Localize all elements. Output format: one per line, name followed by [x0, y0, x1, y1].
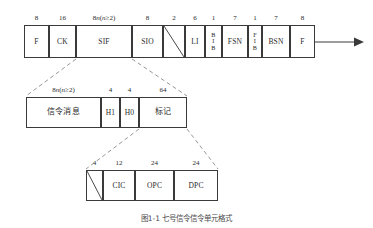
field-h0: H0 — [120, 97, 139, 128]
field-bib: B I B — [205, 25, 222, 58]
field-dpc: DPC — [174, 170, 218, 201]
field-bsn: BSN — [262, 25, 290, 58]
field-fsn: FSN — [222, 25, 248, 58]
field-signaling-message: 信令消息 — [26, 97, 101, 128]
bit-label-bsn: 7 — [262, 14, 290, 22]
bit-label-sif: 8n(n≥2) — [76, 14, 132, 22]
bit-label-fib: 1 — [248, 14, 262, 22]
field-sio: SIO — [132, 25, 163, 58]
bit-label-cic: 12 — [103, 159, 135, 167]
bit-label-mark: 64 — [139, 86, 187, 94]
field-fib: F I B — [248, 25, 262, 58]
field-li: LI — [185, 25, 205, 58]
bit-label-signaling-message: 8n(n≥2) — [26, 86, 101, 94]
field-sif: SIF — [76, 25, 132, 58]
field-f-left: F — [24, 25, 49, 58]
bit-label-sio: 8 — [132, 14, 163, 22]
field-bib-letter-b2: B — [211, 45, 215, 51]
bit-label-spare-4bit: 4 — [86, 159, 103, 167]
field-spare-2bit — [163, 25, 185, 58]
field-f-right: F — [290, 25, 315, 58]
field-spare-4bit — [86, 170, 103, 201]
bit-label-opc: 24 — [135, 159, 174, 167]
bit-label-ck: 16 — [49, 14, 76, 22]
bit-label-dpc: 24 — [174, 159, 218, 167]
field-fib-letter-b: B — [253, 45, 257, 51]
bit-label-spare: 2 — [163, 14, 185, 22]
field-opc: OPC — [135, 170, 174, 201]
field-cic: CIC — [103, 170, 135, 201]
arrow-right-icon — [314, 33, 364, 51]
field-h1: H1 — [101, 97, 120, 128]
field-ck: CK — [49, 25, 76, 58]
bit-label-f-left: 8 — [24, 14, 49, 22]
bit-label-h1: 4 — [101, 86, 120, 94]
diagonal-slash-icon — [164, 26, 184, 57]
diagonal-slash-icon — [87, 171, 102, 200]
bit-label-bib: 1 — [205, 14, 222, 22]
field-mark: 标记 — [139, 97, 187, 128]
bit-label-h0: 4 — [120, 86, 139, 94]
bit-label-li: 6 — [185, 14, 205, 22]
figure-caption: 图1-1 七号信令信令单元格式 — [0, 212, 373, 223]
bit-label-fsn: 7 — [222, 14, 248, 22]
bit-label-f-right: 8 — [290, 14, 315, 22]
figure-ss7-signal-unit-format: 8 16 8n(n≥2) 8 2 6 1 7 1 7 8 F CK SIF SI… — [0, 0, 373, 228]
